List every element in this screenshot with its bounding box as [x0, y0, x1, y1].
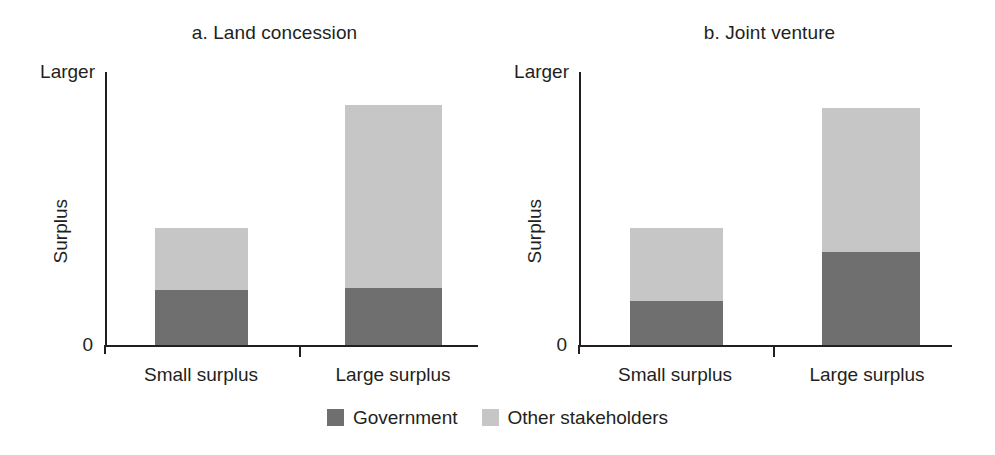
- panel-a-x-axis: [105, 345, 478, 347]
- panel-a-y-tick-label-zero: 0: [82, 334, 93, 356]
- panel-a-bar-large-surplus: [345, 105, 442, 345]
- panel-land-concession: a. Land concession Larger 0 Surplus Smal…: [0, 0, 497, 400]
- legend-label-other-stakeholders: Other stakeholders: [508, 408, 669, 427]
- panel-a-y-tick-zero: [104, 345, 106, 354]
- legend-swatch-other-stakeholders: [482, 409, 499, 426]
- panel-b-x-tick-middle: [773, 347, 775, 357]
- panel-b-category-label-small: Small surplus: [595, 364, 755, 386]
- panel-b-y-tick-label-zero: 0: [556, 334, 567, 356]
- panel-a-category-label-large: Large surplus: [313, 364, 473, 386]
- chart-legend: Government Other stakeholders: [0, 408, 995, 427]
- panel-a-bar-small-segment-other: [155, 228, 248, 291]
- legend-item-other-stakeholders: Other stakeholders: [482, 408, 669, 427]
- panel-b-bar-large-segment-government: [822, 252, 920, 345]
- panel-b-bar-small-segment-other: [630, 228, 723, 302]
- panel-b-y-tick-label-larger: Larger: [514, 61, 569, 83]
- panel-b-y-tick-zero: [578, 345, 580, 354]
- legend-item-government: Government: [327, 408, 458, 427]
- panel-a-bar-small-segment-government: [155, 290, 248, 345]
- panel-a-y-tick-label-larger: Larger: [40, 61, 95, 83]
- panel-a-x-tick-middle: [299, 347, 301, 357]
- panel-b-y-axis: [579, 72, 581, 345]
- legend-label-government: Government: [353, 408, 458, 427]
- panel-a-y-axis: [105, 72, 107, 345]
- panel-a-y-axis-label: Surplus: [50, 199, 72, 263]
- legend-swatch-government: [327, 409, 344, 426]
- panel-a-category-label-small: Small surplus: [121, 364, 281, 386]
- panel-b-bar-small-surplus: [630, 228, 723, 345]
- panel-b-plot-area: Larger 0 Surplus Small surplus Large sur…: [579, 72, 952, 345]
- panel-a-bar-large-segment-other: [345, 105, 442, 288]
- panel-a-bar-small-surplus: [155, 228, 248, 345]
- panel-joint-venture: b. Joint venture Larger 0 Surplus Small …: [497, 0, 994, 400]
- panel-a-title: a. Land concession: [0, 22, 497, 44]
- panel-b-bar-small-segment-government: [630, 301, 723, 345]
- panel-b-bar-large-surplus: [822, 108, 920, 346]
- panel-b-x-axis: [579, 345, 952, 347]
- panel-a-bar-large-segment-government: [345, 288, 442, 345]
- panel-b-y-axis-label: Surplus: [524, 199, 546, 263]
- panel-b-bar-large-segment-other: [822, 108, 920, 253]
- panel-a-plot-area: Larger 0 Surplus Small surplus Large sur…: [105, 72, 478, 345]
- stacked-bar-figure: a. Land concession Larger 0 Surplus Smal…: [0, 0, 995, 455]
- panel-b-category-label-large: Large surplus: [787, 364, 947, 386]
- panel-b-title: b. Joint venture: [497, 22, 994, 44]
